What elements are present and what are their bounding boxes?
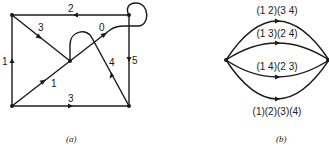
- edge-diag-bottom: [12, 61, 70, 106]
- caption-b: (b): [276, 134, 287, 144]
- label-left: 1: [2, 56, 8, 67]
- label-loop: 0: [99, 22, 105, 33]
- label-bottom: 3: [68, 93, 74, 104]
- node-bottom-right: [127, 104, 131, 108]
- node-left: [224, 58, 228, 62]
- arrow-icon: [275, 19, 280, 24]
- node-top-right: [127, 13, 131, 17]
- node-center: [68, 59, 72, 63]
- label-right: 5: [132, 55, 138, 66]
- arrow-icon: [10, 58, 15, 63]
- arrow-icon: [275, 75, 280, 80]
- label-arc-1: (1 2)(3 4): [256, 5, 297, 16]
- label-diag-right: 4: [109, 57, 115, 68]
- figure-canvas: 2 3 0 1 5 1 3 4 (a) (1 2)(3 4) (1 3)(2 4…: [0, 0, 329, 148]
- caption-a: (a): [66, 134, 77, 144]
- label-arc-2: (1 3)(2 4): [256, 28, 297, 39]
- node-bottom-left: [10, 104, 14, 108]
- arrow-icon: [127, 57, 132, 62]
- arrow-icon: [275, 97, 280, 102]
- label-diag-top: 3: [38, 22, 44, 33]
- label-arc-4: (1)(2)(3)(4): [253, 106, 302, 117]
- edge-diag-right: [70, 32, 129, 106]
- label-top: 2: [68, 3, 74, 14]
- arc-2: [226, 43, 329, 60]
- node-top-left: [10, 13, 14, 17]
- label-diag-bottom: 1: [51, 78, 57, 89]
- arrow-icon: [73, 13, 78, 18]
- arc-1: [226, 21, 329, 60]
- arrow-icon: [275, 41, 280, 46]
- graph-b: (1 2)(3 4) (1 3)(2 4) (1 4)(2 3) (1)(2)(…: [224, 5, 329, 144]
- arrow-icon: [68, 104, 73, 109]
- label-arc-3: (1 4)(2 3): [256, 61, 297, 72]
- graph-a: 2 3 0 1 5 1 3 4 (a): [2, 3, 147, 144]
